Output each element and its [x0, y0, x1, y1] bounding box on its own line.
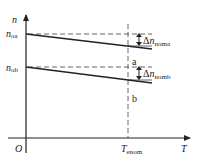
delta-nomb-label: Δnnomb: [143, 68, 171, 81]
tick-nob: nob: [6, 62, 19, 74]
tick-noa: noa: [6, 28, 19, 40]
characteristic-a: [26, 34, 152, 49]
point-b-label: b: [132, 93, 137, 104]
delta-noma-arrow: [136, 33, 142, 46]
characteristic-b: [26, 67, 152, 83]
tick-tenom: Tenom: [121, 143, 143, 156]
x-axis-label: T: [181, 143, 188, 154]
origin-label: O: [15, 143, 22, 154]
point-a-label: a: [132, 56, 137, 67]
speed-torque-diagram: n noa nob Δnnoma Δnnomb a b O Tenom T: [0, 0, 197, 168]
delta-nomb-arrow: [136, 66, 142, 80]
y-axis-label: n: [12, 14, 17, 25]
